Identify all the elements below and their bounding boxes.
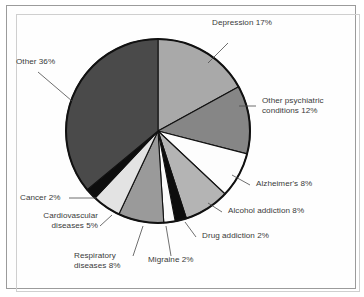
pie-chart-page: Depression 17% Other psychiatricconditio… [0,0,364,297]
slice-label-alcohol-addiction: Alcohol addiction 8% [228,206,304,216]
leader-line-drug-addiction [185,222,196,237]
slice-label-cardiovascular-line1: Cardiovascular [43,211,98,220]
leader-line-cardiovascular [100,215,112,226]
leader-line-other [38,72,72,101]
leader-line-migraine [166,226,171,256]
slice-label-respiratory-line1: Respiratory [74,251,116,260]
slice-label-other-psychiatric-line1: Other psychiatric [262,96,324,105]
slice-label-depression: Depression 17% [212,18,272,28]
slice-label-cancer: Cancer 2% [20,193,61,203]
slice-label-migraine: Migraine 2% [148,255,194,265]
slice-label-other: Other 36% [16,57,55,67]
slice-label-cardiovascular: Cardiovasculardiseases 5% [22,211,98,231]
slice-label-other-psychiatric: Other psychiatricconditions 12% [262,96,354,116]
pie-chart-graphic [0,0,364,297]
slice-label-respiratory: Respiratorydiseases 8% [74,251,132,271]
leader-line-respiratory [133,226,143,256]
slice-label-drug-addiction: Drug addiction 2% [202,231,269,241]
slice-label-alzheimers: Alzheimer's 8% [256,179,312,189]
slice-label-cardiovascular-line2: diseases 5% [52,221,98,230]
slice-label-respiratory-line2: diseases 8% [74,261,120,270]
slice-label-other-psychiatric-line2: conditions 12% [262,106,318,115]
